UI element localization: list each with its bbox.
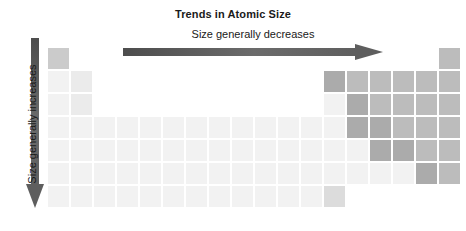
element-cell: [186, 117, 207, 138]
element-cell: [186, 140, 207, 161]
element-cell: [117, 140, 138, 161]
element-cell: [301, 186, 322, 207]
element-cell: [278, 140, 299, 161]
element-cell: [186, 186, 207, 207]
vertical-arrow-label: Size generally increases: [26, 39, 38, 209]
element-cell: [324, 186, 345, 207]
element-cell: [71, 163, 92, 184]
element-cell: [347, 140, 368, 161]
right-arrow-icon: [123, 44, 383, 60]
element-cell: [232, 140, 253, 161]
element-cell: [324, 140, 345, 161]
element-cell: [48, 48, 69, 69]
element-cell: [278, 163, 299, 184]
element-cell: [48, 186, 69, 207]
element-cell: [163, 117, 184, 138]
element-cell: [94, 163, 115, 184]
element-cell: [393, 94, 414, 115]
element-cell: [232, 163, 253, 184]
element-cell: [163, 186, 184, 207]
element-cell: [94, 186, 115, 207]
element-cell: [117, 117, 138, 138]
element-cell: [48, 94, 69, 115]
element-cell: [71, 140, 92, 161]
element-cell: [439, 94, 460, 115]
element-cell: [347, 163, 368, 184]
element-cell: [117, 163, 138, 184]
element-cell: [393, 71, 414, 92]
element-cell: [94, 117, 115, 138]
element-cell: [140, 117, 161, 138]
element-cell: [209, 117, 230, 138]
element-cell: [71, 71, 92, 92]
element-cell: [255, 140, 276, 161]
element-cell: [209, 186, 230, 207]
element-cell: [416, 94, 437, 115]
element-cell: [416, 117, 437, 138]
element-cell: [48, 163, 69, 184]
element-cell: [439, 117, 460, 138]
element-cell: [393, 117, 414, 138]
element-cell: [301, 163, 322, 184]
element-cell: [232, 186, 253, 207]
element-cell: [232, 117, 253, 138]
element-cell: [370, 163, 391, 184]
element-cell: [186, 163, 207, 184]
element-cell: [301, 117, 322, 138]
element-cell: [416, 71, 437, 92]
element-cell: [324, 117, 345, 138]
horizontal-arrow-label: Size generally decreases: [123, 28, 383, 40]
element-cell: [347, 94, 368, 115]
element-cell: [393, 163, 414, 184]
element-cell: [255, 163, 276, 184]
element-cell: [278, 186, 299, 207]
element-cell: [163, 140, 184, 161]
element-cell: [324, 163, 345, 184]
element-cell: [117, 186, 138, 207]
element-cell: [140, 163, 161, 184]
element-cell: [347, 117, 368, 138]
page-title: Trends in Atomic Size: [0, 8, 466, 20]
element-cell: [48, 140, 69, 161]
element-cell: [71, 94, 92, 115]
element-cell: [255, 117, 276, 138]
element-cell: [370, 140, 391, 161]
element-cell: [48, 71, 69, 92]
element-cell: [140, 140, 161, 161]
element-cell: [48, 117, 69, 138]
element-cell: [370, 71, 391, 92]
element-cell: [347, 71, 368, 92]
element-cell: [71, 186, 92, 207]
element-cell: [209, 163, 230, 184]
element-cell: [393, 140, 414, 161]
element-cell: [370, 94, 391, 115]
element-cell: [439, 163, 460, 184]
element-cell: [416, 163, 437, 184]
element-cell: [439, 48, 460, 69]
element-cell: [324, 71, 345, 92]
element-cell: [439, 71, 460, 92]
element-cell: [370, 117, 391, 138]
element-cell: [416, 140, 437, 161]
element-cell: [209, 140, 230, 161]
element-cell: [255, 186, 276, 207]
element-cell: [71, 117, 92, 138]
element-cell: [278, 117, 299, 138]
element-cell: [439, 140, 460, 161]
element-cell: [301, 140, 322, 161]
element-cell: [163, 163, 184, 184]
atomic-size-trends-diagram: Trends in Atomic Size Size generally dec…: [0, 0, 466, 231]
element-cell: [94, 140, 115, 161]
element-cell: [140, 186, 161, 207]
element-cell: [324, 94, 345, 115]
